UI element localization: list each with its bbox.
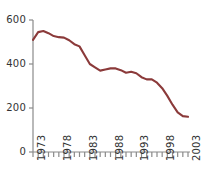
y-tick-label: 200 <box>6 103 26 113</box>
x-tick-label: 1993 <box>140 135 150 161</box>
data-series-line <box>33 31 188 117</box>
x-tick-label: 1978 <box>63 135 73 161</box>
x-tick-label: 1998 <box>166 135 176 161</box>
x-tick-label: 1983 <box>89 135 99 161</box>
x-tick-label: 1988 <box>115 135 125 161</box>
x-tick-label: 1973 <box>37 135 47 161</box>
line-chart: 0200400600 1973197819831988199319982003 <box>0 0 201 195</box>
y-tick-label: 0 <box>19 147 26 157</box>
y-tick-label: 400 <box>6 59 26 69</box>
chart-plot-area <box>0 0 201 195</box>
y-tick-label: 600 <box>6 15 26 25</box>
x-tick-label: 2003 <box>192 135 201 161</box>
